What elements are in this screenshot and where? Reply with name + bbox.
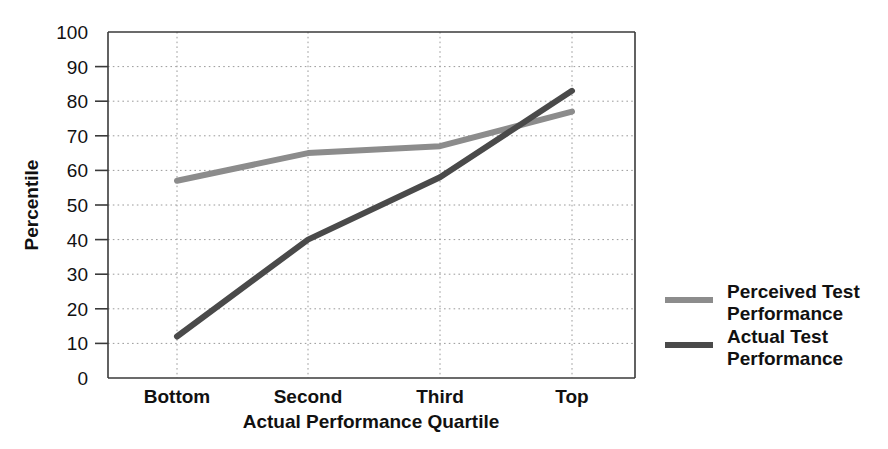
x-axis-tick-labels: Bottom Second Third Top [144, 386, 589, 407]
x-tick-label-top: Top [555, 386, 588, 407]
x-axis-title: Actual Performance Quartile [243, 411, 500, 432]
legend-label-actual-line1: Actual Test [727, 326, 829, 347]
y-tick-label-80: 80 [67, 91, 88, 112]
y-tick-label-30: 30 [67, 264, 88, 285]
y-tick-label-70: 70 [67, 126, 88, 147]
y-tick-label-50: 50 [67, 195, 88, 216]
x-tick-label-third: Third [416, 386, 464, 407]
y-axis-ticks [95, 67, 108, 344]
y-tick-label-40: 40 [67, 230, 88, 251]
y-axis-title: Percentile [21, 160, 42, 251]
y-tick-label-20: 20 [67, 299, 88, 320]
legend-label-actual-line2: Performance [727, 348, 843, 369]
legend-item-perceived-test-performance[interactable]: Perceived Test Performance [665, 281, 860, 324]
x-tick-label-bottom: Bottom [144, 386, 210, 407]
y-tick-label-90: 90 [67, 57, 88, 78]
x-tick-label-second: Second [274, 386, 343, 407]
y-tick-label-0: 0 [77, 368, 88, 389]
y-tick-label-60: 60 [67, 160, 88, 181]
legend-label-perceived-line1: Perceived Test [727, 281, 860, 302]
chart-legend: Perceived Test Performance Actual Test P… [665, 281, 860, 369]
line-chart-canvas: 100 90 80 70 60 50 40 30 20 10 0 Percent… [0, 0, 888, 449]
y-tick-label-100: 100 [56, 22, 88, 43]
y-tick-label-10: 10 [67, 333, 88, 354]
chart-figure: 100 90 80 70 60 50 40 30 20 10 0 Percent… [0, 0, 888, 449]
legend-item-actual-test-performance[interactable]: Actual Test Performance [665, 326, 843, 369]
y-axis-tick-labels: 100 90 80 70 60 50 40 30 20 10 0 [56, 22, 88, 389]
legend-label-perceived-line2: Performance [727, 303, 843, 324]
